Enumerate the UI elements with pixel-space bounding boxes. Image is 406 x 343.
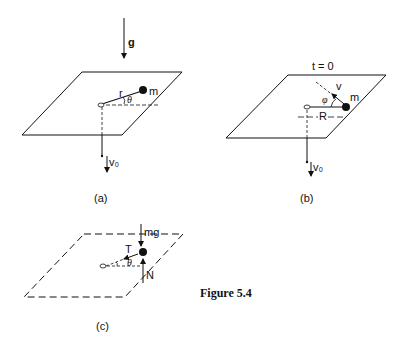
figure-5-4: g m r θ v₀ (a) t = 0 m v φ R	[0, 0, 406, 343]
panel-b: t = 0 m v φ R v₀ (b)	[226, 60, 386, 204]
string-end-dot	[101, 155, 103, 157]
string-end-dot	[306, 161, 308, 163]
mass	[139, 248, 147, 256]
angle-arc	[331, 99, 336, 107]
gravity-label: g	[128, 36, 135, 48]
panel-c: mg T θ N (c)	[24, 224, 183, 332]
pull-velocity-label: v₀	[313, 161, 323, 173]
angle-phi-label: φ	[322, 94, 328, 105]
mass-m	[342, 103, 350, 111]
velocity-label: v	[336, 80, 342, 92]
mass-m	[139, 86, 147, 94]
mass-label: m	[350, 91, 359, 103]
velocity-arrow	[332, 94, 344, 104]
caption-b: (b)	[300, 192, 313, 204]
angle-arc	[116, 262, 117, 266]
pull-velocity-label: v₀	[109, 156, 119, 168]
radius-label: R	[319, 110, 327, 122]
angle-theta-label: θ	[127, 257, 132, 268]
time-label: t = 0	[312, 60, 334, 72]
caption-c: (c)	[96, 320, 109, 332]
normal-force-label: N	[146, 269, 154, 281]
weight-label: mg	[144, 226, 159, 238]
tension-label: T	[125, 243, 132, 255]
angle-arc	[123, 97, 125, 104]
hole	[100, 264, 106, 268]
radius-label: r	[119, 87, 123, 99]
mass-label: m	[149, 85, 158, 97]
caption-a: (a)	[94, 192, 107, 204]
angle-theta-label: θ	[127, 94, 132, 105]
tension-dashed-string	[106, 259, 124, 266]
hole	[98, 103, 104, 107]
panel-a: g m r θ v₀ (a)	[22, 18, 182, 204]
hole	[304, 105, 310, 109]
figure-caption: Figure 5.4	[200, 286, 252, 300]
